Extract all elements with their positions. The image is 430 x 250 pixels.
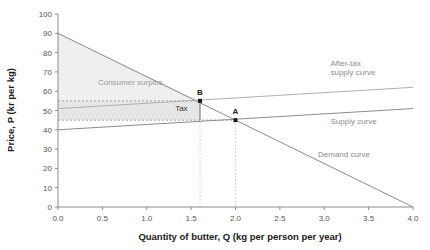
x-tick-label: 1.5 — [186, 214, 198, 223]
y-tick-label: 70 — [43, 68, 52, 77]
x-axis-ticks: 0.00.51.01.52.02.53.03.54.0 — [52, 207, 419, 223]
x-tick-label: 2.5 — [274, 214, 286, 223]
after-tax-supply-curve-label-line2: supply curve — [330, 68, 375, 77]
y-tick-label: 90 — [43, 29, 52, 38]
supply-curve-label: Supply curve — [330, 117, 377, 126]
x-tick-label: 1.0 — [141, 214, 153, 223]
x-axis-title: Quantity of butter, Q (kg per person per… — [138, 231, 341, 242]
point-a-label: A — [233, 107, 239, 116]
demand-curve-label: Demand curve — [318, 150, 371, 159]
chart-canvas: 0102030405060708090100 0.00.51.01.52.02.… — [0, 0, 430, 250]
x-tick-label: 3.5 — [363, 214, 375, 223]
y-axis-title: Price, P (kr per kg) — [5, 68, 16, 152]
after-tax-supply-curve-label-line1: After-tax — [330, 59, 360, 68]
consumer-surplus-label: Consumer surplus — [98, 78, 163, 87]
y-axis-ticks: 0102030405060708090100 — [39, 10, 58, 212]
point-b-label: B — [197, 88, 203, 97]
y-tick-label: 20 — [43, 164, 52, 173]
y-tick-label: 30 — [43, 145, 52, 154]
x-tick-label: 4.0 — [407, 214, 419, 223]
y-tick-label: 40 — [43, 126, 52, 135]
point-b-marker — [198, 99, 202, 103]
point-a-marker — [234, 118, 238, 122]
y-tick-label: 80 — [43, 49, 52, 58]
y-tick-label: 10 — [43, 184, 52, 193]
vertical-reference-lines — [200, 101, 236, 207]
y-tick-label: 0 — [48, 203, 53, 212]
tax-label: Tax — [175, 104, 187, 113]
x-tick-label: 3.0 — [319, 214, 331, 223]
y-tick-label: 50 — [43, 107, 52, 116]
x-tick-label: 0.5 — [97, 214, 109, 223]
x-tick-label: 0.0 — [52, 214, 64, 223]
price-quantity-chart: 0102030405060708090100 0.00.51.01.52.02.… — [0, 0, 430, 250]
x-tick-label: 2.0 — [230, 214, 242, 223]
y-tick-label: 60 — [43, 87, 52, 96]
y-tick-label: 100 — [39, 10, 53, 19]
